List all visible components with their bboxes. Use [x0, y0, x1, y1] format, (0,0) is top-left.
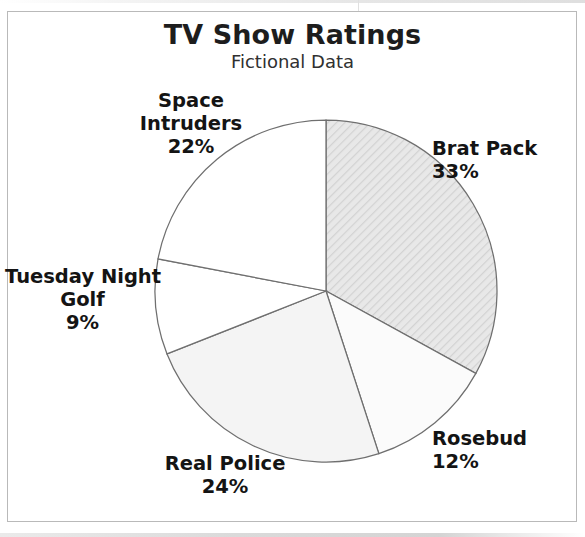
pie-label-brat-pack-line1: Brat Pack [432, 138, 572, 161]
figure-page: TV Show Ratings Fictional Data Space Int… [0, 0, 585, 537]
pie-label-tuesday-night-golf: Tuesday Night Golf 9% [5, 266, 160, 334]
pie-label-space-intruders: Space Intruders 22% [116, 90, 266, 158]
pie-label-brat-pack: Brat Pack 33% [432, 138, 572, 184]
pie-label-rosebud-value: 12% [432, 451, 562, 474]
pie-label-space-intruders-value: 22% [116, 136, 266, 159]
pie-label-real-police: Real Police 24% [140, 453, 310, 499]
pie-label-rosebud: Rosebud 12% [432, 428, 562, 474]
pie-label-real-police-value: 24% [140, 476, 310, 499]
pie-label-tuesday-night-golf-value: 9% [5, 312, 160, 335]
pie-label-rosebud-line1: Rosebud [432, 428, 562, 451]
pie-label-space-intruders-line2: Intruders [116, 113, 266, 136]
pie-label-real-police-line1: Real Police [140, 453, 310, 476]
pie-label-tuesday-night-golf-line1: Tuesday Night [5, 266, 160, 289]
scan-page-edge-bottom [0, 533, 585, 537]
pie-label-tuesday-night-golf-line2: Golf [5, 289, 160, 312]
pie-label-brat-pack-value: 33% [432, 161, 572, 184]
pie-label-space-intruders-line1: Space [116, 90, 266, 113]
